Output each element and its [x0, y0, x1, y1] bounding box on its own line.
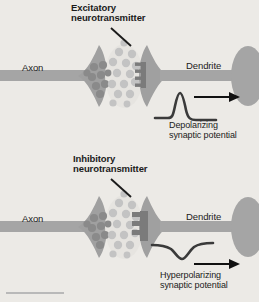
dendrite-shaft — [160, 221, 235, 232]
bottom-rule — [6, 292, 64, 294]
dendrite-label-excitatory: Dendrite — [186, 61, 221, 71]
synaptic-cleft — [105, 195, 143, 259]
synaptic-cleft — [105, 44, 143, 108]
axon-label-excitatory: Axon — [22, 63, 43, 73]
panel-excitatory: Excitatory neurotransmitter Axon Dendrit… — [0, 0, 259, 151]
dendrite-shaft — [160, 70, 235, 81]
synaptic-potential-label-excitatory: Depolarizing synaptic potential — [169, 120, 237, 140]
neurotransmitter-label-inhibitory: Inhibitory neurotransmitter — [73, 154, 147, 175]
propagation-arrow — [194, 92, 240, 102]
propagation-arrow — [194, 259, 240, 269]
axon-label-inhibitory: Axon — [22, 214, 43, 224]
hyperpolarizing-trace — [152, 243, 213, 259]
panel-inhibitory: Inhibitory neurotransmitter Axon Dendrit… — [0, 151, 259, 302]
synapse-figure: Excitatory neurotransmitter Axon Dendrit… — [0, 0, 259, 302]
neurotransmitter-label-excitatory: Excitatory neurotransmitter — [71, 3, 145, 24]
synaptic-potential-label-inhibitory: Hyperpolarizing synaptic potential — [160, 270, 228, 290]
dendrite-label-inhibitory: Dendrite — [186, 212, 221, 222]
postsynaptic-cell-body — [231, 197, 259, 257]
